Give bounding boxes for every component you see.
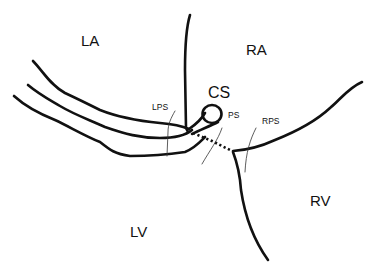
ventricular-septum-line: [233, 152, 268, 260]
label-la: LA: [81, 33, 99, 48]
diagram-canvas: LA RA CS LPS PS RPS LV RV: [0, 0, 373, 273]
label-rps: RPS: [262, 117, 279, 126]
label-rv: RV: [310, 193, 331, 208]
label-lps: LPS: [152, 103, 168, 112]
label-lv: LV: [130, 224, 147, 239]
lps-marker-line: [167, 111, 175, 156]
atrial-septum-line: [185, 15, 190, 132]
diagram-drawing: [0, 0, 373, 273]
label-ra: RA: [246, 42, 267, 57]
right-atrial-floor-curve: [233, 82, 362, 151]
label-ps: PS: [228, 111, 239, 120]
left-atrial-floor-curve: [33, 61, 189, 129]
ps-marker-line: [202, 128, 222, 164]
label-cs: CS: [208, 85, 230, 101]
